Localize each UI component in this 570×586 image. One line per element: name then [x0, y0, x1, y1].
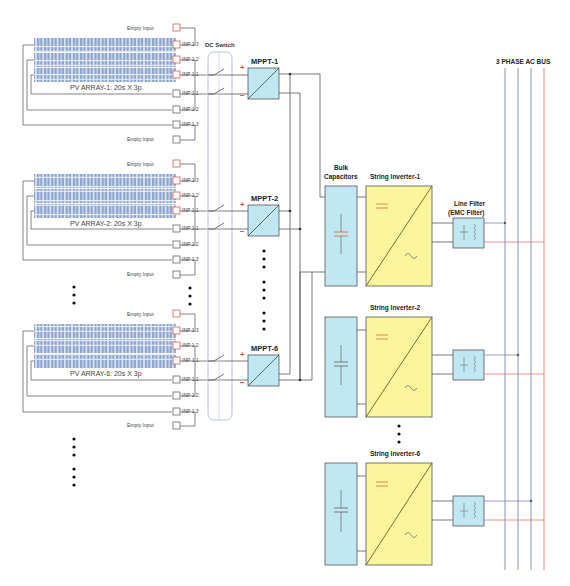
string-inverter-6-label: String Inverter-6 [370, 450, 420, 457]
line-filter-label-2: (EMC Filter) [448, 209, 484, 216]
string-inverter-2-label: String Inverter-2 [370, 304, 420, 311]
mppt-1-label: MPPT-1 [251, 57, 278, 66]
input-label: INP 1.1 [182, 376, 199, 382]
pv-array-name: PV ARRAY-1: 20s X 3p [70, 84, 142, 91]
bulk-capacitors-label-2: Capacitors [324, 173, 358, 180]
empty-input-label: Empty Input [127, 161, 154, 167]
empty-input-label: Empty Input [127, 271, 154, 277]
mppt-2-label: MPPT-2 [251, 194, 278, 203]
input-label: INP 1.3 [182, 327, 199, 333]
mppt-6-plus: + [240, 350, 245, 359]
input-label: INP 1.1 [182, 71, 199, 77]
mppt-1-minus: − [240, 91, 245, 100]
empty-input-label: Empty Input [127, 25, 154, 31]
input-label: INP 1.3 [182, 41, 199, 47]
input-label: INP 1.2 [182, 106, 199, 112]
input-label: INP 1.1 [182, 225, 199, 231]
empty-input-label: Empty Input [127, 311, 154, 317]
input-label: INP 1.2 [182, 342, 199, 348]
input-label: INP 1.1 [182, 207, 199, 213]
input-label: INP 1.3 [182, 177, 199, 183]
line-filter-label-1: Line Filter [454, 200, 485, 207]
input-label: INP 1.1 [182, 90, 199, 96]
empty-input-label: Empty Input [127, 422, 154, 428]
input-label: INP 1.2 [182, 241, 199, 247]
pv-array-name: PV ARRAY-6: 20s X 3p [70, 370, 142, 377]
input-label: INP 1.2 [182, 56, 199, 62]
pv-array-name: PV ARRAY-2: 20s X 3p [70, 220, 142, 227]
empty-input-label: Empty Input [127, 136, 154, 142]
mppt-1-plus: + [240, 63, 245, 72]
input-label: INP 1.3 [182, 121, 199, 127]
input-label: INP 1.2 [182, 392, 199, 398]
input-label: INP 1.3 [182, 256, 199, 262]
input-label: INP 1.1 [182, 357, 199, 363]
ac-bus-label: 3 PHASE AC BUS [496, 58, 550, 65]
mppt-2-minus: − [240, 227, 245, 236]
string-inverter-1-label: String Inverter-1 [370, 173, 420, 180]
mppt-6-label: MPPT-6 [251, 344, 278, 353]
input-label: INP 1.3 [182, 408, 199, 414]
dc-switch-label: DC Switch [205, 42, 235, 48]
mppt-2-plus: + [240, 200, 245, 209]
mppt-6-minus: − [240, 378, 245, 387]
bulk-capacitors-label-1: Bulk [334, 164, 348, 171]
input-label: INP 1.2 [182, 192, 199, 198]
